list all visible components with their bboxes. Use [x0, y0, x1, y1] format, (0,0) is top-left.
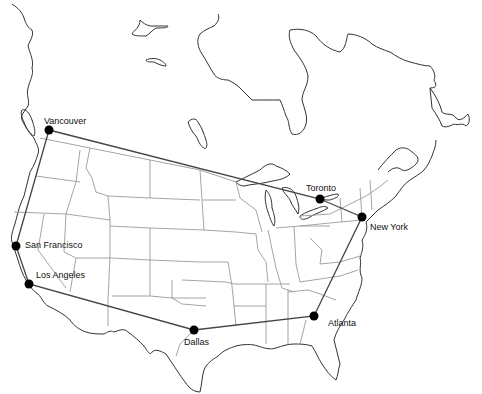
lake-michigan [265, 190, 275, 226]
city-label-san-francisco: San Francisco [25, 240, 83, 250]
city-marker-dallas[interactable] [190, 326, 199, 335]
city-marker-toronto[interactable] [316, 195, 325, 204]
hudson-bay-west [198, 14, 228, 80]
lake-winnipeg [188, 119, 207, 149]
hudson-bay-coastline [228, 30, 308, 135]
city-label-atlanta: Atlanta [328, 318, 356, 328]
city-marker-atlanta[interactable] [310, 312, 319, 321]
lake-superior [236, 164, 290, 186]
city-label-los-angeles: Los Angeles [36, 270, 86, 280]
maritimes-coastline [378, 148, 418, 172]
city-marker-vancouver[interactable] [45, 126, 54, 135]
city-marker-los-angeles[interactable] [25, 280, 34, 289]
mexico-coastline [48, 306, 200, 392]
city-label-vancouver: Vancouver [44, 116, 86, 126]
route-line [16, 130, 362, 330]
arctic-island-2 [146, 59, 166, 67]
city-label-new-york: New York [370, 222, 409, 232]
city-label-toronto: Toronto [306, 183, 336, 193]
gulf-coastline [200, 320, 344, 392]
arctic-island-1 [132, 20, 168, 36]
labrador-coastline [290, 29, 436, 88]
city-new-york[interactable]: New York [358, 213, 409, 233]
city-marker-san-francisco[interactable] [12, 242, 21, 251]
city-atlanta[interactable]: Atlanta [310, 312, 357, 329]
city-vancouver[interactable]: Vancouver [44, 116, 86, 135]
lake-erie [300, 207, 328, 220]
north-america-map: Vancouver Toronto New York San Francisco… [0, 0, 482, 394]
city-marker-new-york[interactable] [358, 213, 367, 222]
city-toronto[interactable]: Toronto [306, 183, 336, 204]
city-label-dallas: Dallas [184, 337, 210, 347]
city-san-francisco[interactable]: San Francisco [12, 240, 83, 251]
newfoundland [430, 88, 469, 127]
